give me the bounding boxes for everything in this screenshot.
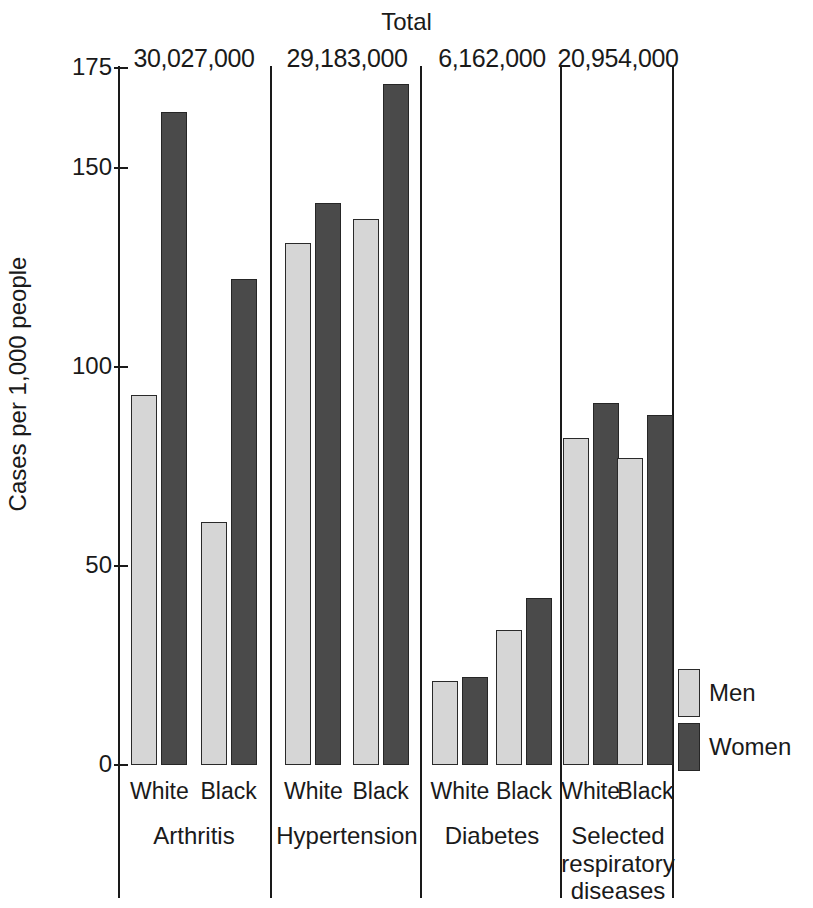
bar-arthritis-white-men xyxy=(131,395,157,765)
y-tick-dash-icon xyxy=(114,167,128,169)
bar-hypertension-black-women xyxy=(383,84,409,765)
bar-selected-black-women xyxy=(647,415,673,765)
group-total-3: 20,954,000 xyxy=(508,44,728,73)
y-tick-label: 150 xyxy=(52,155,112,179)
bar-selected-black-men xyxy=(617,458,643,765)
y-tick-dash-icon xyxy=(114,67,128,69)
y-tick-label: 50 xyxy=(52,553,112,577)
legend-item-women: Women xyxy=(678,720,791,774)
group-label-3: Selectedrespiratorydiseases xyxy=(518,822,718,905)
bar-selected-white-women xyxy=(593,403,619,765)
y-axis-title: Cases per 1,000 people xyxy=(4,174,32,594)
bar-arthritis-black-women xyxy=(231,279,257,765)
bar-hypertension-black-men xyxy=(353,219,379,765)
legend-swatch-women-icon xyxy=(678,723,700,771)
bar-chart: Total 30,027,00029,183,0006,162,00020,95… xyxy=(0,0,813,908)
bar-selected-white-men xyxy=(563,438,589,765)
group-separator-0 xyxy=(118,66,120,898)
y-tick-label: 100 xyxy=(52,354,112,378)
group-label-line: Selected xyxy=(518,822,718,850)
bar-arthritis-white-women xyxy=(161,112,187,765)
race-label-black: Black xyxy=(595,778,695,805)
legend-label-men: Men xyxy=(709,679,756,707)
group-label-line: diseases xyxy=(518,877,718,905)
bar-diabetes-black-women xyxy=(526,598,552,765)
y-tick-label: 175 xyxy=(52,55,112,79)
group-separator-2 xyxy=(420,66,422,898)
bar-hypertension-white-men xyxy=(285,243,311,765)
y-tick-dash-icon xyxy=(114,565,128,567)
y-tick-dash-icon xyxy=(114,366,128,368)
bar-diabetes-white-women xyxy=(462,677,488,765)
legend-swatch-men-icon xyxy=(678,669,700,717)
y-tick-dash-icon xyxy=(114,764,128,766)
legend-item-men: Men xyxy=(678,666,791,720)
bar-diabetes-black-men xyxy=(496,630,522,765)
group-label-line: respiratory xyxy=(518,850,718,878)
group-separator-1 xyxy=(270,66,272,898)
bar-diabetes-white-men xyxy=(432,681,458,765)
y-tick-label: 0 xyxy=(52,752,112,776)
total-caption: Total xyxy=(0,8,813,36)
bar-hypertension-white-women xyxy=(315,203,341,765)
legend: Men Women xyxy=(678,666,791,774)
legend-label-women: Women xyxy=(709,733,791,761)
bar-arthritis-black-men xyxy=(201,522,227,765)
